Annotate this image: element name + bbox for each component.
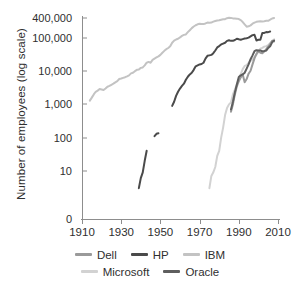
y-tick-label: 0 [0,213,78,225]
y-tick-label: 400,000 [0,12,78,24]
legend-label: IBM [205,249,225,261]
legend-row: DellHPIBM [0,246,300,263]
y-tick-mark [82,37,87,38]
y-tick-label: 10,000 [0,65,78,77]
y-tick-label: 100,000 [0,32,78,44]
x-tick-mark [160,219,161,224]
y-tick-mark [82,18,87,19]
legend-swatch-icon [163,270,180,273]
chart-legend: DellHPIBMMicrosoftOracle [0,246,300,280]
x-tick-label: 1970 [187,226,213,238]
legend-item-hp[interactable]: HP [126,249,174,261]
x-tick-mark [121,219,122,224]
x-tick-label: 2010 [265,226,291,238]
series-line-ibm [90,18,274,101]
x-tick-label: 1990 [226,226,252,238]
series-line-hp [155,133,159,136]
legend-label: Oracle [185,266,219,278]
legend-label: Dell [97,249,117,261]
y-tick-label: 1,000 [0,98,78,110]
x-axis-spine [81,219,280,220]
legend-swatch-icon [131,253,148,256]
x-tick-label: 1950 [148,226,174,238]
legend-item-ibm[interactable]: IBM [178,249,230,261]
y-tick-mark [82,71,87,72]
x-tick-mark [278,219,279,224]
legend-swatch-icon [81,270,98,273]
x-tick-mark [239,219,240,224]
legend-label: HP [153,249,169,261]
legend-row: MicrosoftOracle [0,263,300,280]
legend-item-oracle[interactable]: Oracle [158,266,224,278]
x-tick-mark [82,219,83,224]
legend-swatch-icon [75,253,92,256]
legend-item-dell[interactable]: Dell [70,249,122,261]
legend-label: Microsoft [103,266,150,278]
x-tick-label: 1910 [69,226,95,238]
y-tick-label: 10 [0,165,78,177]
series-line-oracle [231,41,274,110]
y-tick-mark [82,104,87,105]
series-line-dell [231,41,274,112]
series-line-microsoft [209,39,274,188]
x-tick-mark [200,219,201,224]
legend-item-microsoft[interactable]: Microsoft [76,266,155,278]
x-tick-label: 1930 [108,226,134,238]
series-line-hp [172,32,270,106]
y-tick-label: 100 [0,132,78,144]
employee-growth-chart: Number of employees (log scale) 400,0001… [0,0,300,293]
y-axis-spine [82,16,83,221]
y-tick-mark [82,170,87,171]
series-line-hp [139,151,147,188]
y-tick-mark [82,137,87,138]
legend-swatch-icon [183,253,200,256]
